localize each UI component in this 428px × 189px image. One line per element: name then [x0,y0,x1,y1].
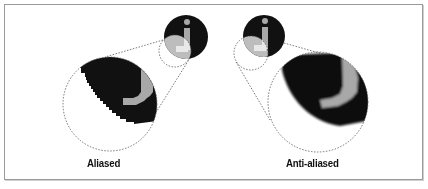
zoom-line-bottom-anti-aliased [236,62,270,120]
small-j-disc-anti-aliased [243,15,285,57]
label-aliased: Aliased [87,157,120,169]
zoom-line-top-aliased [105,40,163,57]
aliasing-diagram [0,0,428,189]
anti-aliased-panel [234,15,372,152]
aliased-panel [63,15,208,151]
label-anti-aliased: Anti-aliased [286,157,339,169]
small-j-disc-aliased [164,15,208,59]
magnified-view-anti-aliased [282,52,372,126]
magnified-view-aliased [80,52,165,124]
